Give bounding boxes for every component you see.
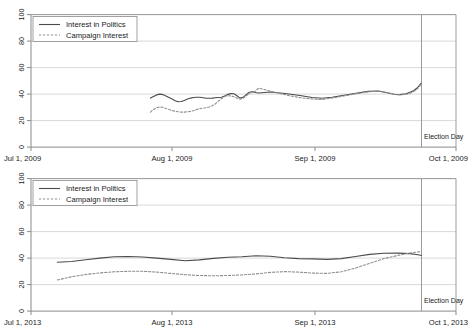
- ytick-label-60: 60: [17, 228, 26, 236]
- ytick-label-80: 80: [17, 201, 26, 209]
- series-campaign-interest-2013: [57, 252, 421, 280]
- ytick-label-60: 60: [17, 64, 26, 72]
- ytick-label-20: 20: [17, 117, 26, 125]
- xtick-label-sep: Sep 1, 2009: [295, 154, 336, 163]
- ytick-label-40: 40: [17, 254, 26, 262]
- ytick-label-20: 20: [17, 281, 26, 289]
- ytick-label-80: 80: [17, 37, 26, 45]
- election-day-label-2013: Election Day: [424, 297, 464, 305]
- ytick-label-0: 0: [17, 309, 26, 313]
- ytick-label-0: 0: [17, 145, 26, 149]
- election-day-label-2009: Election Day: [424, 133, 464, 141]
- series-interest-in-politics-2013: [57, 253, 421, 262]
- xtick-label-aug: Aug 1, 2013: [152, 318, 193, 327]
- ytick-label-100: 100: [17, 9, 26, 21]
- y-ticks-2013: [27, 179, 31, 312]
- series-interest-in-politics-2009: [150, 83, 421, 101]
- legend-label-campaign-interest-2009: Campaign Interest: [66, 31, 129, 40]
- xtick-label-jul: Jul 1, 2013: [4, 318, 41, 327]
- ytick-label-100: 100: [17, 173, 26, 185]
- xtick-label-oct: Oct 1, 2009: [429, 154, 468, 163]
- legend-label-campaign-interest-2013: Campaign Interest: [66, 195, 129, 204]
- x-tick-labels-2009: Jul 1, 2009 Aug 1, 2009 Sep 1, 2009 Oct …: [4, 154, 468, 163]
- legend-label-interest-in-politics-2009: Interest in Politics: [66, 20, 126, 29]
- xtick-label-sep: Sep 1, 2013: [295, 318, 336, 327]
- xtick-label-aug: Aug 1, 2009: [152, 154, 193, 163]
- chart-panel-2013: 100 80 60 40 20 0 Jul 1, 2013 Aug 1, 201…: [0, 164, 472, 328]
- y-tick-labels-2009: 100 80 60 40 20 0: [17, 9, 26, 150]
- y-ticks-2009: [27, 15, 31, 148]
- x-ticks-2013: [31, 311, 456, 315]
- ytick-label-40: 40: [17, 90, 26, 98]
- legend-2013: Interest in Politics Campaign Interest: [33, 181, 137, 206]
- x-tick-labels-2013: Jul 1, 2013 Aug 1, 2013 Sep 1, 2013 Oct …: [4, 318, 468, 327]
- legend-label-interest-in-politics-2013: Interest in Politics: [66, 184, 126, 193]
- xtick-label-jul: Jul 1, 2009: [4, 154, 41, 163]
- xtick-label-oct: Oct 1, 2013: [429, 318, 468, 327]
- x-ticks-2009: [31, 147, 456, 151]
- chart-panel-2009: 100 80 60 40 20 0 Jul 1, 2009 Aug 1, 200…: [0, 0, 472, 164]
- y-tick-labels-2013: 100 80 60 40 20 0: [17, 173, 26, 314]
- two-panel-chart-figure: 100 80 60 40 20 0 Jul 1, 2009 Aug 1, 200…: [0, 0, 472, 328]
- legend-2009: Interest in Politics Campaign Interest: [33, 17, 137, 42]
